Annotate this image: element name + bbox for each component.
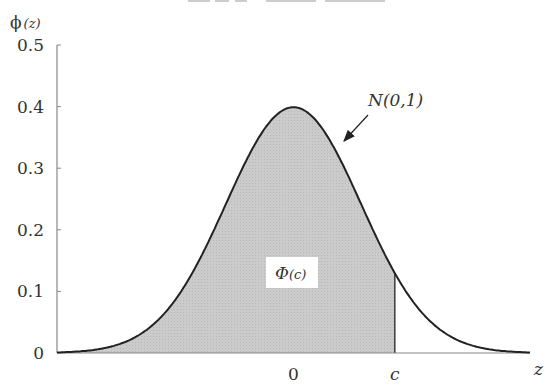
x-axis-label: z (533, 359, 544, 379)
y-axis-label: ϕ(z) (10, 12, 41, 32)
y-tick-label: 0.1 (17, 281, 44, 301)
curve-label-n01: N(0,1) (367, 90, 423, 110)
y-tick-label: 0.3 (17, 158, 44, 178)
curve-label-arrow (344, 115, 368, 141)
y-tick-label: 0.2 (17, 220, 44, 240)
shaded-area-phi-c (57, 107, 395, 353)
x-tick-labels: 0c (288, 364, 400, 384)
normal-distribution-chart: 00.10.20.30.40.5 ϕ(z) z 0c N(0,1) Φ(c) (0, 0, 558, 392)
y-tick-label: 0 (33, 343, 44, 363)
area-label-box: Φ(c) (266, 257, 318, 288)
x-tick-label: c (390, 364, 400, 384)
area-label-phi: Φ (275, 263, 289, 283)
y-tick-label: 0.5 (17, 35, 44, 55)
y-axis-label-arg: (z) (24, 16, 41, 31)
x-tick-label: 0 (288, 364, 299, 384)
y-tick-label: 0.4 (17, 97, 44, 117)
area-label-arg: (c) (289, 267, 306, 282)
y-axis-label-phi: ϕ (10, 12, 22, 32)
y-ticks: 00.10.20.30.40.5 (17, 35, 61, 363)
cropped-title (188, 0, 385, 2)
